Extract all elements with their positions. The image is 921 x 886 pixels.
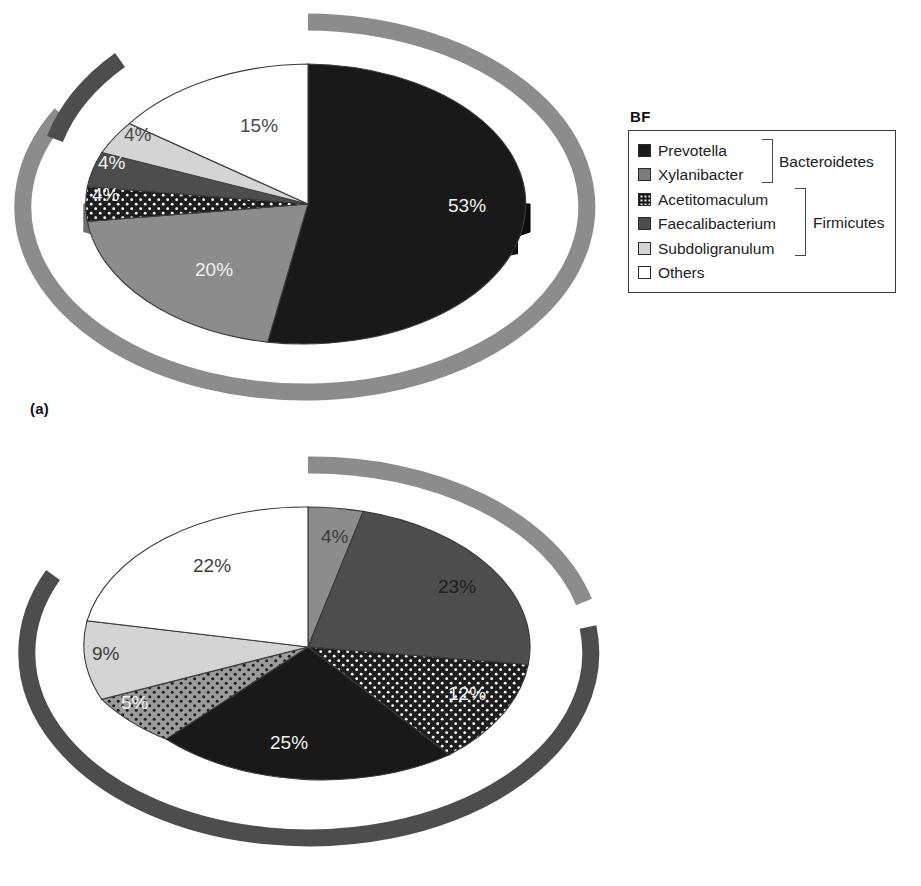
- pie-a-svg: 53% 20% 4% 4% 4% 15%: [8, 4, 608, 404]
- ring-arc-firmicutes-a: [55, 60, 120, 139]
- legend-label-faecalibacterium: Faecalibacterium: [658, 216, 776, 232]
- figure-panel-b: 4% 23% 12% 25% 5% 9% 22% (b) EU Alistipe…: [0, 443, 921, 886]
- legend-swatch-faecalibacterium: [638, 217, 651, 230]
- value-label-bacteroides-b: 23%: [438, 576, 476, 597]
- value-label-subdoligranulum-b: 9%: [92, 643, 120, 664]
- legend-label-others: Others: [658, 265, 705, 281]
- value-label-acetitomaculum-b: 12%: [448, 683, 486, 704]
- legend-a-title: BF: [630, 108, 896, 125]
- legend-a-box: Prevotella Xylanibacter Acetitomaculum F…: [628, 130, 896, 293]
- pie-chart-b: 4% 23% 12% 25% 5% 9% 22%: [8, 447, 608, 847]
- value-label-faecalibacterium-a: 4%: [98, 152, 126, 173]
- value-label-subdoligranulum-a: 4%: [124, 124, 152, 145]
- pie-chart-a: 53% 20% 4% 4% 4% 15%: [8, 4, 608, 404]
- pie-b-svg: 4% 23% 12% 25% 5% 9% 22%: [8, 447, 608, 847]
- value-label-others-b: 22%: [193, 555, 231, 576]
- legend-a: BF Prevotella Xylanibacter Acetitomaculu…: [628, 108, 896, 293]
- legend-item[interactable]: Others: [638, 261, 885, 286]
- figure-panel-a: 53% 20% 4% 4% 4% 15% (a) BF Prevotella X…: [0, 0, 921, 443]
- group-label-bacteroidetes-a: Bacteroidetes: [779, 153, 874, 171]
- legend-swatch-subdoligranulum: [638, 242, 651, 255]
- panel-a-caption: (a): [30, 400, 49, 417]
- value-label-alistipes-b: 4%: [321, 526, 349, 547]
- value-label-roseburia-b: 5%: [121, 692, 149, 713]
- bracket-firmicutes-a: [795, 188, 806, 256]
- value-label-xylanibacter-a: 20%: [195, 259, 233, 280]
- bracket-bacteroidetes-a: [762, 139, 773, 183]
- legend-label-subdoligranulum: Subdoligranulum: [658, 241, 774, 257]
- value-label-faecalibacterium-b: 25%: [270, 732, 308, 753]
- group-label-firmicutes-a: Firmicutes: [813, 214, 884, 232]
- legend-swatch-acetitomaculum: [638, 193, 651, 206]
- legend-swatch-others: [638, 266, 651, 279]
- legend-label-prevotella: Prevotella: [658, 143, 727, 159]
- value-label-prevotella-a: 53%: [448, 195, 486, 216]
- value-label-others-a: 15%: [240, 115, 278, 136]
- legend-item[interactable]: Subdoligranulum: [638, 236, 885, 261]
- legend-item[interactable]: Acetitomaculum: [638, 187, 885, 212]
- legend-label-acetitomaculum: Acetitomaculum: [658, 192, 768, 208]
- value-label-acetitomaculum-a: 4%: [92, 184, 120, 205]
- legend-label-xylanibacter: Xylanibacter: [658, 167, 743, 183]
- legend-swatch-xylanibacter: [638, 168, 651, 181]
- legend-swatch-prevotella: [638, 144, 651, 157]
